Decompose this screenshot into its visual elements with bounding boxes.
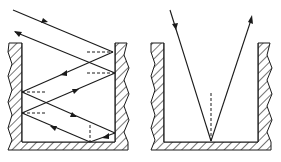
multi-reflection-cavity <box>8 10 129 150</box>
single-reflection-cavity <box>151 10 272 150</box>
arrow-icon <box>41 18 48 23</box>
arrow-icon <box>14 31 22 37</box>
arrow-icon <box>172 23 178 30</box>
ray-arrows <box>172 15 253 30</box>
cavity-interior <box>164 43 258 142</box>
arrow-icon <box>248 15 253 24</box>
reflection-diagram <box>0 0 281 162</box>
